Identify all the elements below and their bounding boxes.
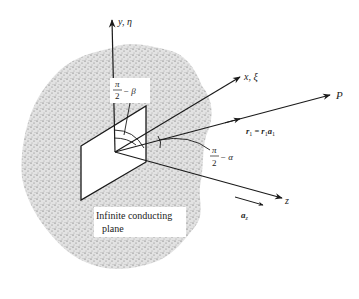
svg-text:π: π <box>115 79 120 89</box>
angle-beta-label: π 2 − β <box>110 78 150 103</box>
svg-text:− β: − β <box>123 86 136 96</box>
y-axis-label: y, η <box>117 16 132 27</box>
angle-alpha-label: π 2 − α <box>210 145 233 168</box>
svg-text:− α: − α <box>220 152 233 162</box>
r1-equation: r1 = r1a1 <box>246 126 275 137</box>
z-axis-label: z <box>284 195 289 206</box>
r1-midarrow <box>225 119 240 123</box>
svg-text:2: 2 <box>115 91 120 101</box>
conducting-plane-diagram: y, η x, ξ P z r1 = r1a1 az π 2 − β π 2 −… <box>0 0 359 299</box>
plane-caption-line2: plane <box>102 223 124 234</box>
az-label: az <box>241 210 249 221</box>
svg-text:π: π <box>212 145 217 155</box>
az-unit-arrow <box>235 197 263 205</box>
svg-text:2: 2 <box>212 158 217 168</box>
point-p-label: P <box>335 89 343 101</box>
x-axis-label: x, ξ <box>243 71 258 83</box>
plane-caption-line1: Infinite conducting <box>96 210 172 221</box>
